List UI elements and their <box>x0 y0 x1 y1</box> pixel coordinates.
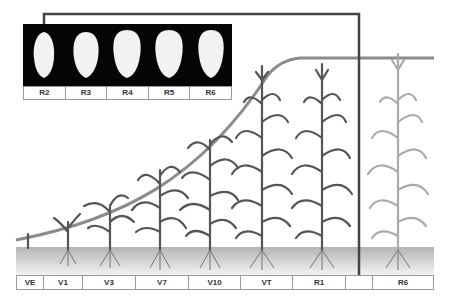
plant-r6 <box>368 54 428 250</box>
stage-label: V10 <box>189 276 241 289</box>
growth-stage-labels: VE V1 V3 V7 V10 VT R1 R6 <box>16 275 434 290</box>
kernel-images <box>23 24 232 86</box>
kernel-panel <box>23 24 232 86</box>
kernel-label: R6 <box>190 87 231 99</box>
stage-label: VE <box>17 276 44 289</box>
stage-label: V3 <box>83 276 136 289</box>
soil-band <box>16 247 434 275</box>
stage-label <box>346 276 373 289</box>
stage-label: R1 <box>293 276 346 289</box>
stage-label: R6 <box>373 276 433 289</box>
kernel-label: R4 <box>107 87 149 99</box>
kernel-label: R3 <box>66 87 108 99</box>
kernel-label: R2 <box>24 87 66 99</box>
stage-label: V7 <box>136 276 189 289</box>
stage-label: V1 <box>44 276 83 289</box>
kernel-stage-labels: R2 R3 R4 R5 R6 <box>23 86 232 100</box>
stage-label: VT <box>241 276 293 289</box>
kernel-label: R5 <box>149 87 191 99</box>
